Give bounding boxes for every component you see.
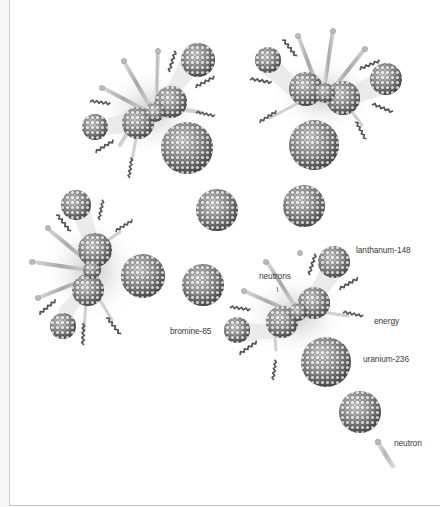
incoming-neutron [375,439,393,466]
label-neutron: neutron [394,437,422,448]
label-neutrons: neutrons [259,270,291,281]
label-energy: energy [374,315,399,326]
label-bromine-85: bromine-85 [170,325,211,336]
free-nuclei [121,120,381,433]
label-lanthanum-148: lanthanum-148 [356,244,411,255]
label-uranium-236: uranium-236 [363,353,409,364]
